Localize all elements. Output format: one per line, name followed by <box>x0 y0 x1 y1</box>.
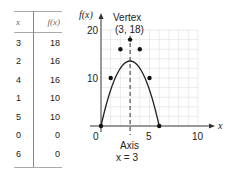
axes <box>90 16 212 132</box>
axis-equation: x = 3 <box>116 152 138 163</box>
origin-label: 0 <box>93 131 99 142</box>
parabola-chart: f(x) x 20 10 0 5 10 Vertex (3, 18) Axis … <box>0 0 243 178</box>
x-tick-5: 5 <box>146 131 152 142</box>
vertex-coords: (3, 18) <box>115 24 144 35</box>
x-axis-label: x <box>217 120 223 131</box>
y-axis-arrow-icon <box>99 13 104 19</box>
axis-label: Axis <box>120 140 139 151</box>
y-tick-20: 20 <box>87 25 99 36</box>
y-axis-label: f(x) <box>79 9 94 21</box>
y-tick-10: 10 <box>87 73 99 84</box>
x-axis-arrow-icon <box>209 124 215 129</box>
vertex-label: Vertex <box>113 12 141 23</box>
x-tick-10: 10 <box>192 131 204 142</box>
